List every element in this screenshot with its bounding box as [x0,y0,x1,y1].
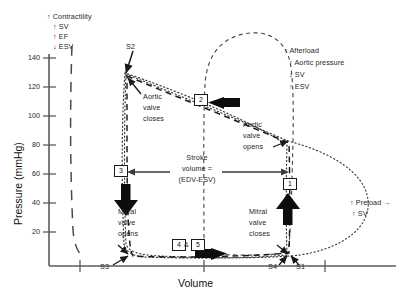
mitral-valve-opens-line1: Mitral [118,207,136,217]
contractility-annotation-line4: ↓ ESV [53,42,73,52]
phase-1-thick-up-arrow [276,193,300,225]
phase-box-5: 5 [191,239,205,251]
contractility-annotation-line2: ↑ SV [53,22,69,32]
mitral-valve-closes-pointer [277,245,288,254]
mitral-valve-opens-line3: opens [118,229,138,239]
x-axis-title: Volume [178,277,213,289]
s4-pointer [279,256,287,265]
afterload-annotation-line3: ↓ SV [289,70,305,80]
ytick-140: 140 [14,53,40,62]
mitral-valve-opens-pointer [118,245,128,254]
heart-sound-s3: S3 [100,262,109,272]
heart-sound-s2: S2 [126,42,135,52]
phase-2-thick-left-arrow [208,97,240,109]
aortic-valve-opens-line2: valve [243,131,260,141]
aortic-valve-opens-line1: Aortic [243,120,262,130]
afterload-annotation-line2: ↑ Aortic pressure [289,58,344,68]
aortic-valve-opens-pointer [273,141,288,147]
phase-box-2: 2 [194,94,208,106]
aortic-valve-closes-pointer [128,78,141,94]
contractility-annotation-line3: ↑ EF [53,32,68,42]
phase-box-3: 3 [114,165,128,177]
heart-sound-s4: S4 [268,262,277,272]
afterload-annotation-line4: ↑ ESV [289,82,309,92]
afterload-annotation-line1: ↑ Afterload [284,46,319,56]
heart-sound-s1: S1 [296,262,305,272]
pv-loop-figure: 140 120 100 80 60 40 20 Pressure (mmHg) … [0,0,403,298]
aortic-valve-closes-line1: Aortic [143,92,162,102]
contractility-annotation-line1: ↑ Contractility [47,12,92,22]
aortic-valve-closes-line2: valve [143,103,160,113]
stroke-volume-label-line2: volume = [166,164,228,174]
mitral-valve-opens-line2: valve [118,218,135,228]
preload-annotation-line1: ↑ Preload → [350,198,391,208]
preload-annotation-line2: ↑ SV [352,209,368,219]
s3-pointer [113,256,128,265]
stroke-volume-label-line1: Stroke [166,153,228,163]
mitral-valve-closes-line3: closes [249,229,270,239]
stroke-volume-label-line3: (EDV-ESV) [163,175,231,185]
y-axis-title: Pressure (mmHg) [12,142,24,225]
ytick-100: 100 [14,111,40,120]
mitral-valve-closes-line2: valve [249,218,266,228]
phase-box-1: 1 [283,178,297,190]
aortic-valve-closes-line3: closes [143,114,164,124]
phase-box-ampersand: & [184,240,189,249]
s2-pointer [126,51,133,73]
ytick-20: 20 [14,227,40,236]
mitral-valve-closes-line1: Mitral [249,207,267,217]
ytick-120: 120 [14,82,40,91]
aortic-valve-opens-line3: opens [243,142,263,152]
